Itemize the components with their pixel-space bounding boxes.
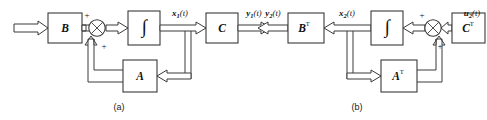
signal-x1-to-C xyxy=(160,22,206,34)
diagram-canvas: B + + xyxy=(0,0,487,120)
signal-x1-tap-to-A xyxy=(157,31,191,82)
signal-B-to-sum xyxy=(82,25,89,31)
signal-label-y1: y1(t) xyxy=(245,8,261,19)
block-A: A xyxy=(123,60,157,92)
panel-b: y2(t) BT x2(t) xyxy=(258,8,485,112)
block-B-label: B xyxy=(60,22,69,34)
block-C: C xyxy=(206,13,238,43)
signal-label-y2: y2(t) xyxy=(264,8,280,19)
panel-a: B + + xyxy=(14,8,271,112)
signal-input-u1-to-B xyxy=(14,21,48,35)
block-C-label: C xyxy=(218,22,226,34)
signal-label-x1: x1(t) xyxy=(171,8,188,19)
block-A-label: A xyxy=(135,70,144,82)
signal-CT-to-sum xyxy=(441,22,452,34)
block-BT: BT xyxy=(288,13,324,43)
plus-sign-top-b: + xyxy=(419,10,424,20)
summing-junction-a xyxy=(89,20,105,36)
signal-label-x2: x2(t) xyxy=(338,8,355,19)
caption-a: (a) xyxy=(114,102,125,112)
block-diagram-figure: B + + xyxy=(0,0,487,120)
plus-sign-top-a: + xyxy=(84,10,89,20)
summing-junction-b xyxy=(425,20,441,36)
plus-sign-bottom-a: + xyxy=(101,41,106,51)
block-integrator-b: ∫ xyxy=(371,11,403,45)
signal-label-u2: u2(t) xyxy=(464,8,480,19)
block-B: B xyxy=(48,13,82,43)
signal-sum-to-integrator-b xyxy=(403,22,425,34)
block-AT: AT xyxy=(381,60,417,92)
signal-sum-to-integrator xyxy=(106,22,128,34)
caption-b: (b) xyxy=(352,102,363,112)
block-integrator-a: ∫ xyxy=(128,11,160,45)
